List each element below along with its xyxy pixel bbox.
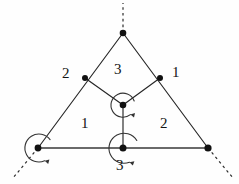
bottom-right-ray-dashed	[208, 148, 233, 178]
label-left-upper: 2	[62, 66, 70, 81]
vertex-bottom-center	[120, 145, 127, 152]
label-bottom-center: 3	[116, 158, 124, 173]
edge-right-mid-to-center	[123, 78, 160, 105]
label-lower-left: 1	[81, 116, 89, 131]
vertex-apex	[120, 30, 127, 37]
vertex-right-mid	[157, 75, 163, 81]
vertex-bottom-right	[204, 144, 211, 151]
edge-left-mid-to-center	[85, 78, 123, 105]
dashed-ray-group	[13, 3, 233, 178]
bottom-center-rotation-arrowhead	[130, 161, 135, 165]
interior-edges-group	[85, 78, 160, 148]
center-rotation-arrowhead	[130, 113, 135, 117]
vertex-center	[120, 102, 127, 109]
diagram-canvas: 2 3 1 1 2 3	[0, 0, 239, 184]
vertex-left-mid	[82, 75, 88, 81]
label-right-upper: 1	[172, 65, 180, 80]
label-lower-right: 2	[160, 116, 168, 131]
vertex-bottom-left	[35, 145, 42, 152]
bottom-left-rotation-arrowhead	[45, 160, 50, 165]
label-top-center: 3	[114, 62, 122, 77]
